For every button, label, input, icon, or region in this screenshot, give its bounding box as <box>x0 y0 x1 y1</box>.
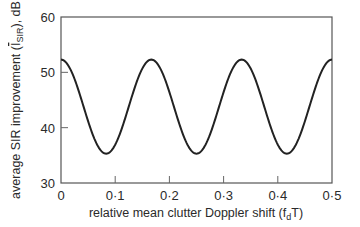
x-tick-label: 0·2 <box>160 188 179 203</box>
y-tick-label: 40 <box>41 121 55 136</box>
x-tick-label: 0 <box>57 188 64 203</box>
x-tick-label: 0·4 <box>268 188 287 203</box>
sir-improvement-chart: 00·10·20·30·40·5 30405060 relative mean … <box>0 0 360 227</box>
x-axis-ticks: 00·10·20·30·40·5 <box>57 176 341 203</box>
plot-frame <box>61 17 332 183</box>
x-tick-label: 0·3 <box>214 188 233 203</box>
y-tick-label: 60 <box>41 10 55 25</box>
y-tick-label: 50 <box>41 65 55 80</box>
y-tick-label: 30 <box>41 176 55 191</box>
y-axis-label: average SIR improvement (ISIR), dB <box>9 1 25 199</box>
x-tick-label: 0·5 <box>323 188 342 203</box>
y-axis-ticks: 30405060 <box>41 10 68 191</box>
x-axis-label: relative mean clutter Doppler shift (fdT… <box>89 206 303 222</box>
x-tick-label: 0·1 <box>106 188 125 203</box>
sir-curve <box>61 60 332 154</box>
